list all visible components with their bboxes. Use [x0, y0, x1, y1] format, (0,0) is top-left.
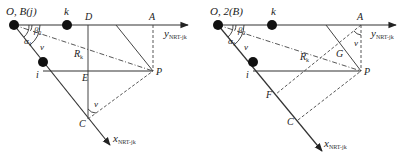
label-k-right: k	[271, 5, 277, 17]
label-C-left: C	[79, 118, 86, 129]
label-E-left: E	[81, 72, 88, 83]
label-C-right: C	[287, 116, 294, 127]
label-i-left: i	[36, 69, 39, 80]
node-k-left	[62, 20, 72, 30]
label-D-left: D	[84, 11, 93, 22]
label-nu-left: ν	[40, 42, 44, 52]
label-P-left: P	[155, 66, 162, 77]
label-alpha-left: α1	[24, 36, 32, 47]
dashed-AF-right	[276, 25, 361, 94]
label-nu-C-left: ν	[94, 99, 98, 109]
node-O-left	[9, 20, 19, 30]
arc-beta-right	[235, 25, 236, 30]
label-R-right: Rk	[299, 51, 309, 63]
label-origin-right: O, 2(B)	[210, 5, 243, 18]
label-x-axis-right: xNRT-jk	[323, 137, 347, 150]
label-y-axis-left: yNRT-jk	[163, 27, 187, 40]
label-alpha-right: α1	[228, 36, 236, 47]
label-A-right: A	[356, 11, 364, 22]
label-A-left: A	[148, 11, 156, 22]
label-R-left: Rk	[73, 48, 83, 60]
label-G-right: G	[336, 48, 343, 59]
arc-nu-A-right	[354, 31, 361, 35]
label-k-left: k	[64, 5, 70, 17]
label-nu-A-right: ν	[354, 38, 358, 48]
dashed-CP-right	[298, 71, 361, 120]
label-origin-left: O, B(j)	[6, 5, 37, 18]
label-x-axis-left: xNRT-jk	[112, 132, 136, 145]
label-y-axis-right: yNRT-jk	[370, 27, 394, 40]
node-k-right	[267, 20, 277, 30]
dashed-CP-left	[88, 71, 153, 119]
label-P-right: P	[363, 66, 370, 77]
node-O-right	[213, 20, 223, 30]
left-panel: O, B(j) k D A i E P C Rk β2 α1 ν ν yNRT-…	[6, 5, 188, 145]
right-panel: O, 2(B) k A i G P F C Rk β2 α1 ν ν yNRT-…	[210, 5, 396, 151]
geometry-figure: O, B(j) k D A i E P C Rk β2 α1 ν ν yNRT-…	[0, 0, 408, 163]
arc-nu-C-left	[88, 109, 96, 113]
label-nu-right: ν	[244, 42, 248, 52]
node-i-left	[38, 57, 48, 67]
line-to-P-left	[116, 25, 153, 71]
label-F-right: F	[265, 89, 273, 100]
line-to-P-right	[326, 25, 361, 71]
node-i-right	[248, 57, 258, 67]
arc-beta-left	[31, 25, 32, 30]
label-i-right: i	[246, 69, 249, 80]
